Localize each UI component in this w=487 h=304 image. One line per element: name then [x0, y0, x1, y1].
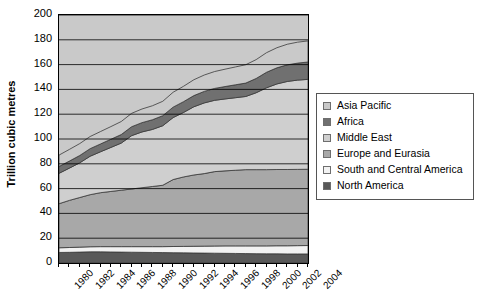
- x-tick-mark-1981: [68, 263, 69, 267]
- y-tick-label-0: 0: [26, 256, 52, 267]
- x-tick-label-1986: 1986: [135, 268, 158, 291]
- x-tick-label-2000: 2000: [280, 268, 303, 291]
- y-tick-label-60: 60: [26, 182, 52, 193]
- x-tick-mark-2000: [266, 263, 267, 267]
- area-series-group: [59, 41, 308, 263]
- y-axis-tick-labels: 020406080100120140160180200: [22, 14, 52, 262]
- y-tick-label-80: 80: [26, 157, 52, 168]
- x-axis-tick-labels: 1980198219841986198819901992199419961998…: [58, 264, 307, 304]
- x-tick-label-1992: 1992: [197, 268, 220, 291]
- x-tick-mark-1989: [151, 263, 152, 267]
- x-tick-label-2004: 2004: [322, 268, 345, 291]
- stacked-area-chart: Trillion cubic metres 020406080100120140…: [0, 0, 487, 304]
- legend-item-middle-east[interactable]: Middle East: [323, 130, 468, 145]
- legend-label: South and Central America: [337, 164, 463, 175]
- legend-item-africa[interactable]: Africa: [323, 114, 468, 129]
- legend-label: North America: [337, 180, 404, 191]
- x-tick-label-1980: 1980: [73, 268, 96, 291]
- legend-item-europe-and-eurasia[interactable]: Europe and Eurasia: [323, 146, 468, 161]
- legend-swatch-north-america: [323, 182, 331, 190]
- legend-swatch-europe-eurasia: [323, 150, 331, 158]
- x-tick-mark-1983: [89, 263, 90, 267]
- legend-item-north-america[interactable]: North America: [323, 178, 468, 193]
- y-axis-title: Trillion cubic metres: [0, 0, 22, 268]
- y-tick-label-20: 20: [26, 231, 52, 242]
- y-tick-label-200: 200: [26, 8, 52, 19]
- x-tick-mark-1997: [234, 263, 235, 267]
- x-tick-mark-1995: [214, 263, 215, 267]
- x-tick-mark-1984: [100, 263, 101, 267]
- x-tick-mark-2001: [276, 263, 277, 267]
- x-tick-mark-1990: [162, 263, 163, 267]
- x-tick-mark-1991: [172, 263, 173, 267]
- x-tick-label-1996: 1996: [239, 268, 262, 291]
- x-tick-mark-1999: [255, 263, 256, 267]
- legend-label: Africa: [337, 116, 364, 127]
- y-tick-label-40: 40: [26, 206, 52, 217]
- x-tick-mark-1985: [110, 263, 111, 267]
- x-tick-label-1990: 1990: [176, 268, 199, 291]
- y-tick-label-120: 120: [26, 107, 52, 118]
- x-tick-label-1998: 1998: [259, 268, 282, 291]
- x-tick-mark-1992: [183, 263, 184, 267]
- x-tick-mark-1980: [58, 263, 59, 267]
- x-tick-label-1984: 1984: [114, 268, 137, 291]
- plot-area: [58, 14, 309, 264]
- x-tick-mark-1998: [245, 263, 246, 267]
- x-tick-label-1994: 1994: [218, 268, 241, 291]
- x-tick-mark-1996: [224, 263, 225, 267]
- y-tick-label-160: 160: [26, 58, 52, 69]
- x-tick-label-1988: 1988: [156, 268, 179, 291]
- x-tick-mark-1987: [131, 263, 132, 267]
- x-tick-mark-1986: [120, 263, 121, 267]
- x-tick-label-2002: 2002: [301, 268, 324, 291]
- legend-label: Europe and Eurasia: [337, 148, 430, 159]
- legend-swatch-asia-pacific: [323, 102, 331, 110]
- legend-swatch-africa: [323, 118, 331, 126]
- y-tick-label-140: 140: [26, 82, 52, 93]
- legend-label: Middle East: [337, 132, 392, 143]
- plot-svg: [59, 15, 308, 263]
- x-tick-label-1982: 1982: [93, 268, 116, 291]
- x-tick-mark-2002: [286, 263, 287, 267]
- legend-label: Asia Pacific: [337, 100, 391, 111]
- legend-swatch-south-central-america: [323, 166, 331, 174]
- x-tick-mark-1982: [79, 263, 80, 267]
- legend-item-south-and-central-america[interactable]: South and Central America: [323, 162, 468, 177]
- x-tick-mark-1988: [141, 263, 142, 267]
- y-tick-label-100: 100: [26, 132, 52, 143]
- x-tick-mark-2004: [307, 263, 308, 267]
- chart-legend: Asia PacificAfricaMiddle EastEurope and …: [316, 93, 474, 200]
- x-tick-mark-2003: [297, 263, 298, 267]
- y-axis-title-label: Trillion cubic metres: [5, 81, 17, 188]
- y-tick-label-180: 180: [26, 33, 52, 44]
- legend-item-asia-pacific[interactable]: Asia Pacific: [323, 98, 468, 113]
- x-tick-mark-1993: [193, 263, 194, 267]
- x-tick-mark-1994: [203, 263, 204, 267]
- legend-swatch-middle-east: [323, 134, 331, 142]
